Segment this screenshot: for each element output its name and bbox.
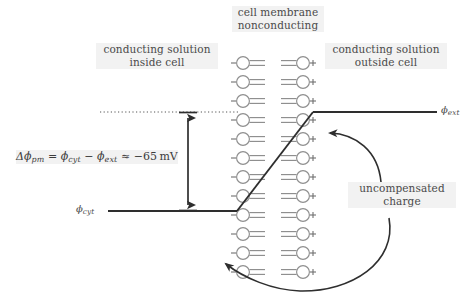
potential-difference-equation: Δϕpm = ϕcyt − ϕext ≈ −65mV [16, 150, 178, 164]
lipid-bilayer [237, 57, 310, 279]
equals-sign: = [44, 150, 60, 163]
charge-signs [231, 60, 316, 275]
lipid-row [237, 133, 310, 146]
lipid-row [237, 76, 310, 89]
membrane-title-label: cell membrane nonconducting [232, 6, 324, 32]
phi-ext-label: ϕext [441, 104, 460, 117]
minus-sign: − [81, 150, 97, 163]
phi-cyt-label: ϕcyt [76, 203, 94, 216]
lipid-row [237, 228, 310, 241]
potential-unit: mV [159, 150, 177, 163]
positive-charges [310, 60, 316, 275]
eq-phi-ext-symbol: ϕ [97, 150, 105, 163]
uncompensated-charge-arrow-lower [226, 218, 390, 291]
membrane-potential-diagram: cell membrane nonconducting conducting s… [0, 0, 475, 303]
phi-cyt-subscript: cyt [83, 207, 95, 216]
phi-ext-symbol: ϕ [441, 104, 448, 115]
uncompensated-charge-label: uncompensated charge [348, 182, 456, 208]
approx-sign: ≈ [117, 150, 133, 163]
lipid-row [237, 209, 310, 222]
lipid-row [237, 247, 310, 260]
delta-phi-subscript: pm [31, 155, 44, 164]
lipid-row [237, 171, 310, 184]
potential-difference-arrow [179, 113, 197, 211]
inside-solution-label: conducting solution inside cell [96, 43, 218, 69]
phi-ext-subscript: ext [448, 108, 460, 117]
lipid-row [237, 95, 310, 108]
phi-cyt-symbol: ϕ [76, 203, 83, 214]
lipid-row [237, 57, 310, 70]
potential-value: −65 [134, 150, 157, 163]
negative-charges [231, 63, 236, 272]
lipid-row [237, 114, 310, 127]
lipid-row [237, 152, 310, 165]
outside-solution-label: conducting solution outside cell [325, 43, 447, 69]
eq-phi-cyt-subscript: cyt [68, 155, 81, 164]
delta-phi-symbol: Δϕ [16, 150, 31, 163]
eq-phi-ext-subscript: ext [105, 155, 118, 164]
uncompensated-charge-arrow-upper [330, 133, 381, 182]
